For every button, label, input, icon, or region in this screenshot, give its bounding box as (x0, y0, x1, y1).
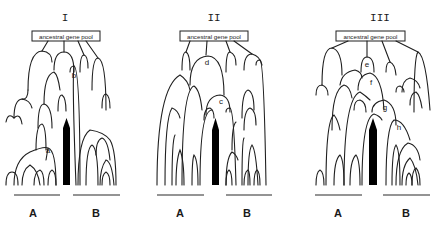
gene-tree-figure: I ancestral gene pool (0, 0, 443, 234)
ancestral-gene-pool-label: ancestral gene pool (187, 33, 241, 40)
node-label-h: h (397, 123, 401, 132)
node-label-a: a (46, 146, 51, 155)
tree-branches (6, 41, 116, 185)
node-label-f: f (370, 78, 373, 87)
group-label-B: B (243, 207, 251, 219)
group-label-A: A (29, 207, 37, 219)
ancestral-gene-pool-label: ancestral gene pool (343, 33, 397, 40)
black-arrow-icon (212, 118, 219, 185)
ancestral-gene-pool-label: ancestral gene pool (39, 33, 93, 40)
panel-title: III (370, 12, 390, 24)
group-label-B: B (402, 207, 410, 219)
group-label-A: A (334, 207, 342, 219)
node-label-b: b (72, 71, 77, 80)
black-arrow-icon (369, 118, 377, 185)
panel-title: II (207, 12, 220, 24)
panel-I: I ancestral gene pool (6, 12, 120, 219)
black-arrow-icon (63, 118, 70, 185)
group-label-A: A (176, 207, 184, 219)
node-label-d: d (205, 58, 209, 67)
node-label-g: g (383, 103, 387, 112)
group-label-B: B (92, 207, 100, 219)
panel-title: I (62, 12, 69, 24)
node-label-c: c (219, 97, 223, 106)
node-label-e: e (365, 60, 370, 69)
tree-branches (157, 41, 266, 185)
panel-II: II ancestral gene pool (157, 12, 272, 219)
panel-III: III ancestral gene pool (315, 12, 430, 219)
